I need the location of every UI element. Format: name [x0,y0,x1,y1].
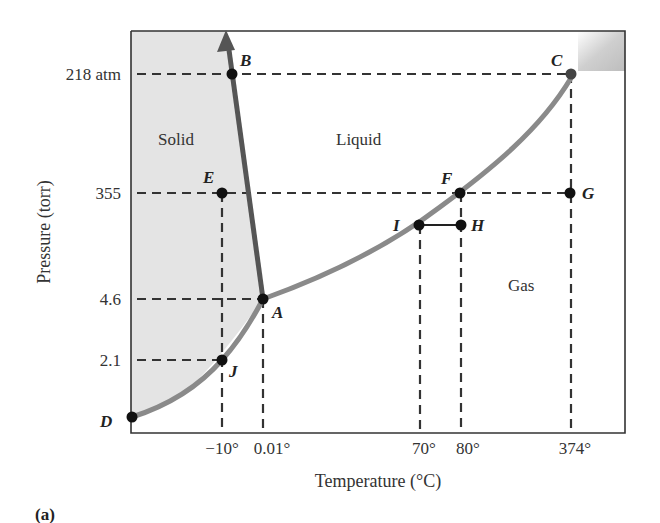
x-tick-80: 80° [456,439,480,458]
x-tick-0-01: 0.01° [254,439,291,458]
x-tick-minus10: −10° [205,439,238,458]
supercritical-shade [578,31,625,71]
label-h: H [470,216,485,235]
region-gas-label: Gas [508,276,534,295]
phase-diagram: A B C D E F G H I J Solid Liquid Gas 218… [0,0,660,523]
liquid-gas-curve [263,78,571,299]
y-axis-title: Pressure (torr) [34,180,55,283]
region-liquid-label: Liquid [336,130,382,149]
label-a: A [271,303,283,322]
y-tick-2-1: 2.1 [100,351,121,370]
point-a [258,294,269,305]
y-tick-218atm: 218 atm [66,65,121,84]
label-j: J [228,362,238,381]
region-solid-label: Solid [158,130,194,149]
point-j [217,355,228,366]
y-tick-4-6: 4.6 [100,290,121,309]
solid-region [131,31,263,433]
point-f [455,188,466,199]
label-f: F [440,169,453,188]
x-axis-title: Temperature (°C) [315,471,441,492]
y-tick-355: 355 [96,184,122,203]
label-d: D [99,412,112,431]
label-b: B [239,51,251,70]
point-i [414,220,425,231]
point-b [227,69,238,80]
point-d [127,412,138,423]
point-g [565,188,576,199]
point-c [566,69,577,80]
panel-label: (a) [35,505,55,523]
label-e: E [202,168,214,187]
point-h [456,220,467,231]
x-tick-70: 70° [412,439,436,458]
point-e [217,188,228,199]
label-g: G [582,184,595,203]
label-c: C [551,51,563,70]
x-tick-374: 374° [559,439,591,458]
